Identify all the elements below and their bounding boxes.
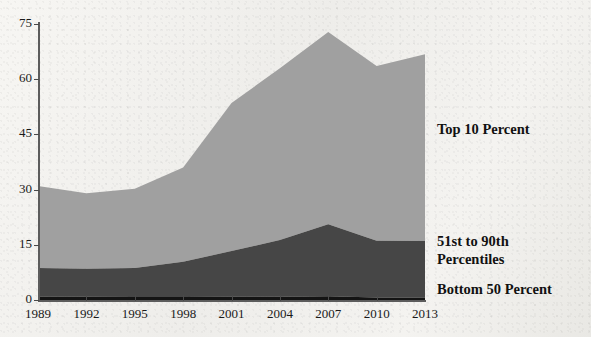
legend-label-bot50: Bottom 50 Percent: [437, 281, 552, 299]
y-tick-mark: [34, 134, 39, 135]
y-tick-label: 15: [2, 236, 32, 252]
area-series-group: [38, 32, 425, 300]
stacked-area-chart: 01530456075 1989199219951998200120042007…: [0, 0, 591, 337]
y-tick-label: 45: [2, 125, 32, 141]
x-tick-label: 2001: [208, 306, 256, 322]
y-tick-mark: [34, 24, 39, 25]
x-tick-mark: [86, 295, 87, 301]
y-tick-mark: [34, 245, 39, 246]
y-tick-mark: [34, 79, 39, 80]
x-tick-label: 1992: [62, 306, 110, 322]
legend-label-top10: Top 10 Percent: [437, 121, 530, 139]
x-tick-label: 2010: [353, 306, 401, 322]
x-tick-mark: [232, 295, 233, 301]
x-tick-mark: [135, 295, 136, 301]
x-tick-label: 2007: [304, 306, 352, 322]
y-tick-mark: [34, 300, 39, 301]
y-axis-line: [38, 22, 40, 302]
y-tick-label: 75: [2, 15, 32, 31]
x-tick-mark: [328, 295, 329, 301]
y-tick-label: 30: [2, 181, 32, 197]
x-tick-label: 1998: [159, 306, 207, 322]
y-tick-label: 0: [2, 291, 32, 307]
x-tick-mark: [377, 295, 378, 301]
y-tick-mark: [34, 190, 39, 191]
x-tick-label: 2013: [401, 306, 449, 322]
x-tick-label: 1989: [14, 306, 62, 322]
x-tick-mark: [183, 295, 184, 301]
y-tick-label: 60: [2, 70, 32, 86]
x-tick-label: 1995: [111, 306, 159, 322]
legend-label-mid40: 51st to 90th Percentiles: [437, 233, 509, 268]
x-tick-mark: [280, 295, 281, 301]
area-band: [38, 32, 425, 269]
x-tick-label: 2004: [256, 306, 304, 322]
